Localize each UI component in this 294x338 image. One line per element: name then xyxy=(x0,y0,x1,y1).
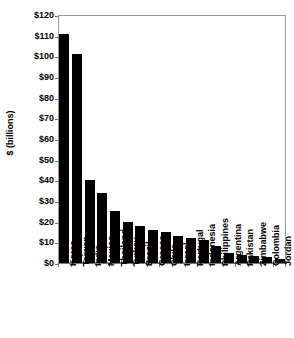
x-category-label: Argentina xyxy=(233,224,243,266)
x-category-label: Brazil xyxy=(144,241,154,266)
y-axis-tick-labels: $0$10$20$30$40$50$60$70$80$90$100$110$12… xyxy=(16,15,58,263)
x-category-label: Colombia xyxy=(271,225,281,266)
x-category-label: Chile xyxy=(169,244,179,266)
x-category-label: Mexico xyxy=(106,235,116,266)
bar xyxy=(59,34,69,263)
x-category-label: Portugal xyxy=(195,229,205,266)
y-tick-label: $90 xyxy=(39,72,54,82)
y-tick-label: $10 xyxy=(39,237,54,247)
x-category-label: Philippines xyxy=(220,218,230,266)
y-tick-label: $0 xyxy=(44,258,54,268)
x-category-label: Indonesia xyxy=(207,224,217,266)
y-tick-label: $100 xyxy=(34,51,54,61)
x-category-label: India xyxy=(93,245,103,266)
y-tick-label: $30 xyxy=(39,196,54,206)
x-category-label: Taiwan xyxy=(81,236,91,266)
x-category-label: Jordan xyxy=(283,236,293,266)
bars-layer xyxy=(58,15,286,263)
y-axis-title-text: $ (billions) xyxy=(4,110,14,155)
x-category-label: Turkey xyxy=(131,237,141,266)
bar-chart: $ (billions) $0$10$20$30$40$50$60$70$80$… xyxy=(0,0,294,338)
x-category-label: Pakistan xyxy=(245,229,255,266)
x-axis-category-labels: KoreaTaiwanIndiaMexicoThailandTurkeyBraz… xyxy=(58,266,286,338)
x-category-label: Korea xyxy=(68,240,78,266)
x-category-label: Thailand xyxy=(119,229,129,266)
bar xyxy=(72,54,82,263)
y-tick-label: $60 xyxy=(39,134,54,144)
x-category-label: Zimbabwe xyxy=(258,222,268,266)
y-tick-label: $40 xyxy=(39,175,54,185)
y-tick-label: $50 xyxy=(39,155,54,165)
x-category-label: Greece xyxy=(157,235,167,266)
y-tick-label: $120 xyxy=(34,10,54,20)
y-tick-label: $20 xyxy=(39,217,54,227)
y-tick-label: $110 xyxy=(34,31,54,41)
x-category-label: Israel xyxy=(182,242,192,266)
y-tick-label: $70 xyxy=(39,113,54,123)
y-tick-label: $80 xyxy=(39,93,54,103)
